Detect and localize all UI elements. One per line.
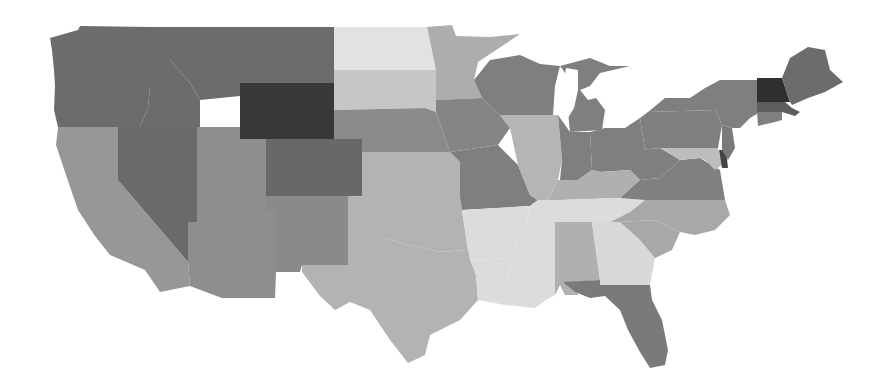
state-ME[interactable] <box>782 47 843 105</box>
state-WY[interactable] <box>240 83 334 139</box>
state-CO[interactable] <box>266 139 362 196</box>
state-RI[interactable] <box>775 112 782 122</box>
map-svg <box>0 0 894 389</box>
us-choropleth-map <box>0 0 894 389</box>
state-FL[interactable] <box>563 280 668 368</box>
state-AZ[interactable] <box>188 196 275 298</box>
state-PA[interactable] <box>640 110 722 150</box>
state-ND[interactable] <box>334 27 436 70</box>
state-WA[interactable] <box>50 26 150 86</box>
state-CT[interactable] <box>757 112 775 126</box>
state-KS[interactable] <box>362 152 460 198</box>
state-SD[interactable] <box>334 70 436 112</box>
state-OR[interactable] <box>54 86 150 127</box>
